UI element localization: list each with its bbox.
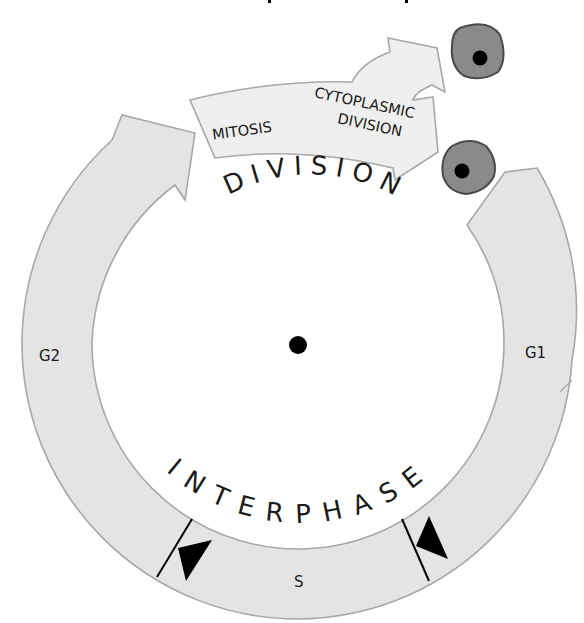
interphase-heading: INTERPHASE: [162, 453, 438, 530]
g1-label: G1: [525, 344, 546, 362]
g2-label: G2: [39, 347, 60, 365]
s-label: S: [294, 573, 304, 591]
nucleus-icon: [473, 51, 488, 66]
cropped-title-fragment: [268, 0, 408, 3]
daughter-cell-bottom: [442, 141, 495, 194]
daughter-cell-top: [452, 24, 504, 78]
cell-cycle-diagram: MITOSIS CYTOPLASMIC DIVISION DIVISION IN…: [0, 0, 584, 623]
nucleus-icon: [455, 164, 470, 179]
interphase-ring: [22, 115, 577, 619]
center-dot: [289, 336, 307, 354]
